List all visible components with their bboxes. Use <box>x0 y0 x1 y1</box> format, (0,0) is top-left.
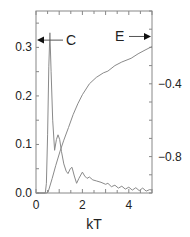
x-tick-label: 0 <box>33 198 40 212</box>
y-right-tick-label: −0.8 <box>158 150 182 164</box>
series-line-c <box>36 33 152 193</box>
y-right-tick-label: −0.4 <box>158 77 182 91</box>
chart: 0240.00.10.20.3−0.4−0.8 CE kT <box>0 0 190 237</box>
x-axis-label: kT <box>86 216 102 232</box>
arrow-right-icon <box>144 33 151 40</box>
arrow-left-icon <box>37 37 44 44</box>
y-left-tick-label: 0.3 <box>15 40 32 54</box>
annotations: CE <box>37 28 151 48</box>
y-left-tick-label: 0.1 <box>15 137 32 151</box>
plot-frame-rect <box>36 11 152 193</box>
plot-frame <box>36 11 152 193</box>
series-lines <box>36 33 152 193</box>
series-line-e <box>36 47 152 194</box>
tick-labels: 0240.00.10.20.3−0.4−0.8 <box>15 40 182 212</box>
annotation-label-c: C <box>66 32 76 48</box>
x-tick-label: 2 <box>79 198 86 212</box>
y-left-tick-label: 0.2 <box>15 89 32 103</box>
y-left-tick-label: 0.0 <box>15 186 32 200</box>
x-tick-label: 4 <box>125 198 132 212</box>
annotation-label-e: E <box>115 28 124 44</box>
axis-ticks <box>36 11 152 193</box>
